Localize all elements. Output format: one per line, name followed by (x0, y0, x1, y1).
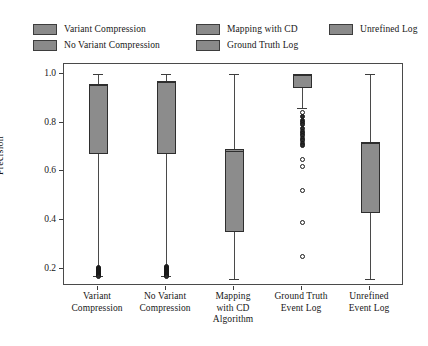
boxplot-upper-cap (365, 74, 375, 75)
boxplot-median-line (361, 143, 380, 144)
y-axis-tick-label: 0.2 (30, 263, 56, 273)
plot-area (63, 63, 403, 285)
legend-label: No Variant Compression (64, 40, 160, 51)
y-axis-label: Precision (0, 136, 5, 175)
boxplot-box-group (64, 64, 402, 284)
chart-legend: Variant CompressionNo Variant Compressio… (33, 24, 423, 58)
boxplot-box (361, 142, 380, 213)
legend-swatch-icon (196, 40, 220, 51)
x-axis-tick-mark (97, 286, 98, 290)
boxplot-upper-whisker (370, 74, 371, 142)
legend-entry: Variant Compression (33, 24, 146, 35)
legend-entry: No Variant Compression (33, 40, 160, 51)
boxplot-lower-cap (365, 279, 375, 280)
y-axis-tick-label: 0.8 (30, 117, 56, 127)
legend-label: Unrefined Log (360, 24, 418, 35)
y-axis-tick-label: 0.6 (30, 165, 56, 175)
boxplot-figure: Variant CompressionNo Variant Compressio… (0, 0, 428, 346)
y-axis-tick-label: 0.4 (30, 214, 56, 224)
x-axis-tick-mark (165, 286, 166, 290)
x-axis-tick-label: UnrefinedEvent Log (326, 291, 412, 314)
boxplot-lower-whisker (370, 213, 371, 279)
x-axis-tick-mark (369, 286, 370, 290)
legend-label: Variant Compression (64, 24, 146, 35)
legend-swatch-icon (33, 40, 57, 51)
legend-swatch-icon (33, 24, 57, 35)
y-axis-tick-label: 1.0 (30, 68, 56, 78)
legend-entry: Unrefined Log (329, 24, 418, 35)
legend-entry: Ground Truth Log (196, 40, 298, 51)
legend-label: Mapping with CD (227, 24, 298, 35)
legend-swatch-icon (196, 24, 220, 35)
boxplot-series-container (64, 64, 402, 284)
legend-swatch-icon (329, 24, 353, 35)
x-axis-tick-mark (233, 286, 234, 290)
x-axis-tick-mark (301, 286, 302, 290)
legend-entry: Mapping with CD (196, 24, 298, 35)
legend-label: Ground Truth Log (227, 40, 298, 51)
